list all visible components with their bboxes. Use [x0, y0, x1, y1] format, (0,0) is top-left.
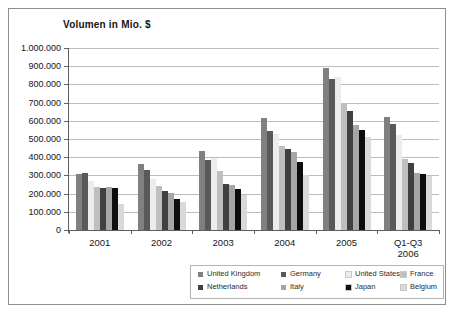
x-tick-label: 2001: [69, 237, 131, 248]
legend-swatch: [281, 272, 286, 277]
legend-label: Belgium: [410, 282, 437, 291]
x-tick-label: 2004: [254, 237, 316, 248]
bar-belgium-2003: [241, 195, 247, 230]
x-tick-label: 2003: [192, 237, 254, 248]
legend-swatch: [198, 285, 203, 290]
chart-title: Volumen in Mio. $: [63, 19, 151, 30]
x-tick-mark: [316, 230, 317, 234]
gridline: [69, 103, 439, 104]
legend-swatch: [401, 285, 406, 290]
x-tick-label: 2005: [316, 237, 378, 248]
bar-belgium-2002: [180, 202, 186, 230]
x-tick-mark: [254, 230, 255, 234]
chart-frame: Volumen in Mio. $ 0100.000200.000300.000…: [8, 8, 446, 305]
legend-swatch: [401, 272, 406, 277]
y-tick-label: 900.000: [11, 61, 61, 71]
x-tick-label: Q1-Q32006: [377, 237, 439, 259]
legend-swatch: [198, 272, 203, 277]
y-tick-label: 0: [11, 225, 61, 235]
legend-label: Netherlands: [207, 282, 247, 291]
y-tick-label: 500.000: [11, 134, 61, 144]
x-tick-mark: [192, 230, 193, 234]
x-tick-mark: [439, 230, 440, 234]
legend-label: Germany: [290, 269, 321, 278]
x-tick-mark: [69, 230, 70, 234]
gridline: [69, 48, 439, 49]
y-tick-label: 300.000: [11, 170, 61, 180]
legend-label: Japan: [355, 282, 375, 291]
gridline: [69, 66, 439, 67]
bar-belgium-Q1-Q3-2006: [426, 176, 432, 230]
legend-label: France: [410, 269, 433, 278]
y-tick-label: 800.000: [11, 79, 61, 89]
bar-belgium-2005: [365, 137, 371, 230]
plot-area: 20012002200320042005Q1-Q32006: [69, 48, 439, 230]
bar-belgium-2001: [118, 204, 124, 230]
legend-swatch: [281, 285, 286, 290]
gridline: [69, 84, 439, 85]
y-tick-label: 1.000.000: [11, 43, 61, 53]
y-axis-line: [68, 48, 69, 233]
x-tick-mark: [131, 230, 132, 234]
x-tick-mark: [377, 230, 378, 234]
x-tick-label: 2002: [131, 237, 193, 248]
legend-label: United Kingdom: [207, 269, 260, 278]
y-tick-label: 700.000: [11, 98, 61, 108]
y-tick-label: 400.000: [11, 152, 61, 162]
y-tick-label: 100.000: [11, 207, 61, 217]
legend-swatch: [346, 285, 351, 290]
y-tick-label: 200.000: [11, 189, 61, 199]
legend-label: Italy: [290, 282, 304, 291]
bar-belgium-2004: [303, 175, 309, 230]
legend-label: United States: [355, 269, 400, 278]
legend: United KingdomGermanyUnited StatesFrance…: [190, 265, 444, 299]
legend-swatch: [346, 272, 351, 277]
y-tick-label: 600.000: [11, 116, 61, 126]
